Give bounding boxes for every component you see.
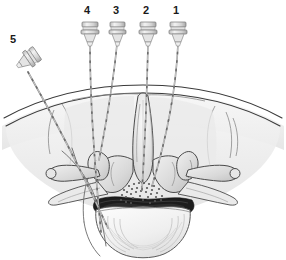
needle-3-hub bbox=[109, 22, 126, 46]
vertebral-body bbox=[96, 207, 191, 258]
needle-1-hub bbox=[169, 22, 187, 46]
needle-label-1: 1 bbox=[173, 5, 179, 16]
needle-hubs bbox=[12, 22, 187, 74]
needle-label-4: 4 bbox=[84, 5, 90, 16]
spine-needle-figure: 5 4 3 2 1 bbox=[0, 0, 286, 260]
needle-5-hub bbox=[12, 46, 42, 74]
needle-4-hub bbox=[81, 22, 99, 46]
anatomy-illustration bbox=[0, 0, 286, 260]
needle-label-2: 2 bbox=[143, 5, 149, 16]
needle-label-5: 5 bbox=[10, 34, 16, 45]
needle-2-hub bbox=[139, 22, 157, 46]
needle-label-3: 3 bbox=[113, 5, 119, 16]
